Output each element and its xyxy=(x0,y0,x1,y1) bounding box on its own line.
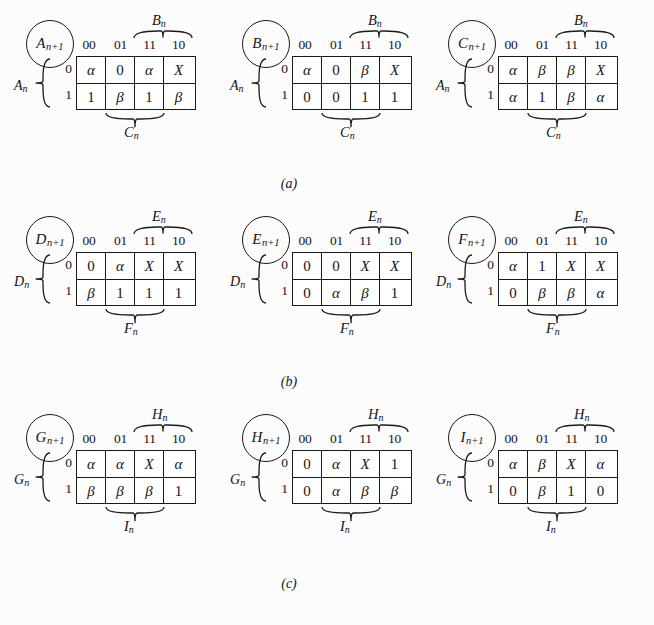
kmap-cell: 1 xyxy=(164,478,193,504)
column-headers: 00011110 xyxy=(74,37,218,53)
kmap-cell: 0 xyxy=(499,280,528,306)
kmap-f: Fn+1En00011110Dn01α1XX0ββαFn xyxy=(424,200,642,380)
column-header: 01 xyxy=(106,431,135,447)
kmap-cell: α xyxy=(586,451,615,477)
row-header: 0 xyxy=(270,450,290,476)
kmap-row-group: Dn+1En00011110Dn010αXXβ111FnEn+1En000111… xyxy=(0,200,654,398)
column-header: 10 xyxy=(380,233,409,249)
left-variable-label: Gn xyxy=(14,472,29,488)
column-header: 01 xyxy=(528,233,557,249)
kmap-cell: 1 xyxy=(557,478,586,504)
kmap-row: αβXα xyxy=(499,451,617,478)
kmap-cell: β xyxy=(135,478,164,504)
kmap-row: 0011 xyxy=(293,84,411,110)
kmap-cell: X xyxy=(351,451,380,477)
kmap-cell: 1 xyxy=(380,451,409,477)
column-header: 00 xyxy=(74,233,104,249)
kmap-cell: 1 xyxy=(164,280,193,306)
kmap-cell: α xyxy=(322,451,351,477)
kmap-cell: 0 xyxy=(586,478,615,504)
top-variable-label: Hn xyxy=(368,406,383,423)
bottom-brace xyxy=(527,506,587,516)
kmap-grid: 00XX0αβ1 xyxy=(292,252,412,306)
column-headers: 00011110 xyxy=(74,431,218,447)
kmap-cell: 1 xyxy=(528,84,557,110)
kmap-a: An+1Bn00011110An01α0αX1β1βCn xyxy=(2,4,220,184)
left-brace xyxy=(258,452,268,502)
kmap-row: α0αX xyxy=(77,57,195,84)
left-variable-label: An xyxy=(436,78,450,94)
kmap-row: 0αβ1 xyxy=(293,280,411,306)
column-header: 01 xyxy=(106,37,135,53)
column-header: 10 xyxy=(164,233,193,249)
row-header: 0 xyxy=(476,450,496,476)
row-header: 1 xyxy=(270,82,290,108)
kmap-cell: 1 xyxy=(380,280,409,306)
column-headers: 00011110 xyxy=(290,37,434,53)
column-headers: 00011110 xyxy=(496,37,640,53)
row-headers: 01 xyxy=(54,450,74,502)
left-brace xyxy=(258,254,268,304)
top-variable-label: Bn xyxy=(574,12,588,29)
row-headers: 01 xyxy=(270,450,290,502)
column-header: 11 xyxy=(351,233,380,249)
kmap-cell: α xyxy=(322,478,351,504)
subfigure-caption: (c) xyxy=(0,576,616,592)
column-header: 01 xyxy=(106,233,135,249)
kmap-cell: 0 xyxy=(322,57,351,83)
left-brace xyxy=(258,58,268,108)
kmap-cell: 1 xyxy=(135,280,164,306)
left-variable-label: Dn xyxy=(230,274,245,290)
column-header: 10 xyxy=(586,233,615,249)
kmap-cell: α xyxy=(164,451,193,477)
column-header: 10 xyxy=(586,37,615,53)
kmap-cell: X xyxy=(380,57,409,83)
kmap-cell: β xyxy=(351,478,380,504)
column-header: 00 xyxy=(496,233,526,249)
kmap-cell: α xyxy=(322,280,351,306)
kmap-cell: 0 xyxy=(77,253,106,279)
kmap-grid: αβXα0β10 xyxy=(498,450,618,504)
kmap-cell: X xyxy=(586,253,615,279)
column-header: 00 xyxy=(290,233,320,249)
top-variable-label: Hn xyxy=(574,406,589,423)
karnaugh-map-figure: An+1Bn00011110An01α0αX1β1βCnBn+1Bn000111… xyxy=(0,0,654,625)
kmap-grid: 0αXXβ111 xyxy=(76,252,196,306)
kmap-row-group: Gn+1Hn00011110Gn01ααXαβββ1InHn+1Hn000111… xyxy=(0,398,654,620)
kmap-cell: X xyxy=(557,253,586,279)
kmap-row: 0αXX xyxy=(77,253,195,280)
kmap-cell: X xyxy=(586,57,615,83)
kmap-grid: ααXαβββ1 xyxy=(76,450,196,504)
kmap-cell: α xyxy=(586,280,615,306)
column-header: 00 xyxy=(74,37,104,53)
kmap-cell: 1 xyxy=(528,253,557,279)
kmap-row: 0ββα xyxy=(499,280,617,306)
bottom-variable-label: Cn xyxy=(546,124,561,141)
row-header: 0 xyxy=(54,450,74,476)
column-header: 10 xyxy=(164,37,193,53)
column-header: 01 xyxy=(322,233,351,249)
row-headers: 01 xyxy=(270,252,290,304)
kmap-h: Hn+1Hn00011110Gn010αX10αββIn xyxy=(218,398,436,578)
top-variable-label: Bn xyxy=(368,12,382,29)
kmap-cell: 0 xyxy=(106,57,135,83)
column-header: 11 xyxy=(351,431,380,447)
kmap-cell: X xyxy=(135,253,164,279)
kmap-cell: β xyxy=(557,280,586,306)
kmap-row: 0αX1 xyxy=(293,451,411,478)
row-header: 0 xyxy=(54,252,74,278)
row-header: 1 xyxy=(270,476,290,502)
left-variable-label: An xyxy=(230,78,244,94)
column-header: 01 xyxy=(322,431,351,447)
row-header: 1 xyxy=(54,82,74,108)
left-brace xyxy=(42,58,52,108)
kmap-row: 00XX xyxy=(293,253,411,280)
kmap-cell: α xyxy=(499,451,528,477)
row-header: 0 xyxy=(476,252,496,278)
column-header: 11 xyxy=(135,233,164,249)
bottom-variable-label: In xyxy=(124,518,134,535)
left-variable-label: Dn xyxy=(436,274,451,290)
kmap-cell: β xyxy=(557,57,586,83)
kmap-cell: X xyxy=(380,253,409,279)
top-variable-label: Hn xyxy=(152,406,167,423)
